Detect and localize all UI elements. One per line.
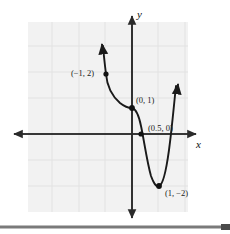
curve-left-arrowhead <box>102 44 103 52</box>
point-marker-05-0 <box>138 131 143 136</box>
point-marker-neg1-2 <box>103 71 108 76</box>
point-label-neg1-2: (−1, 2) <box>71 68 94 78</box>
horizontal-scrollbar[interactable] <box>0 224 230 230</box>
point-label-0-1: (0, 1) <box>136 95 155 105</box>
scrollbar-track[interactable] <box>0 226 228 229</box>
coordinate-plane-graph: (−1, 2) (0, 1) (0.5, 0) (1, −2) y x <box>0 0 230 234</box>
scrollbar-thumb[interactable] <box>221 224 230 230</box>
point-label-1-neg2: (1, −2) <box>165 188 188 198</box>
point-label-05-0: (0.5, 0) <box>148 123 173 133</box>
graph-figure: (−1, 2) (0, 1) (0.5, 0) (1, −2) y x <box>0 0 230 234</box>
x-axis-label: x <box>195 138 201 150</box>
y-axis-label: y <box>136 8 142 20</box>
point-marker-1-neg2 <box>156 183 162 189</box>
curve-right-arrowhead <box>177 84 178 92</box>
point-marker-0-1 <box>129 105 135 111</box>
